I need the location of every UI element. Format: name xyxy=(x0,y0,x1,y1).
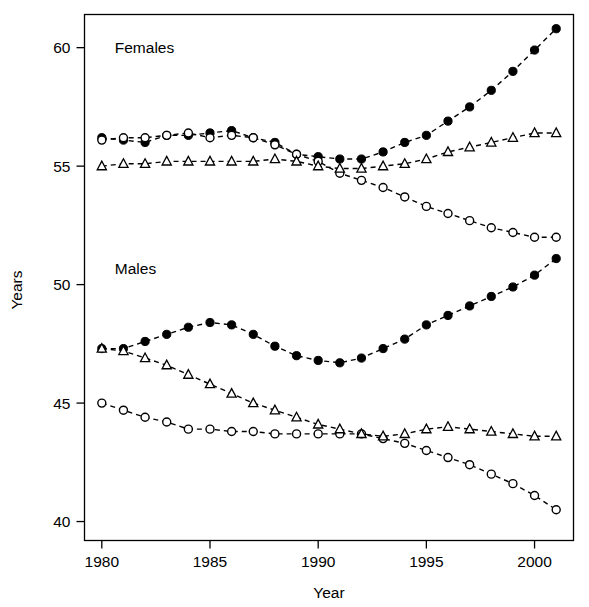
marker-filled-circle xyxy=(444,117,452,125)
marker-filled-circle xyxy=(336,359,344,367)
marker-open-circle xyxy=(444,210,452,218)
x-tick-label: 1980 xyxy=(85,553,120,570)
marker-filled-circle xyxy=(379,344,387,352)
marker-open-circle xyxy=(357,176,365,184)
marker-filled-circle xyxy=(509,67,517,75)
marker-open-circle xyxy=(249,428,257,436)
marker-filled-circle xyxy=(466,103,474,111)
marker-open-circle xyxy=(422,202,430,210)
marker-open-circle xyxy=(509,480,517,488)
marker-open-circle xyxy=(552,233,560,241)
marker-open-circle xyxy=(249,134,257,142)
marker-open-circle xyxy=(184,425,192,433)
marker-open-circle xyxy=(531,491,539,499)
marker-filled-circle xyxy=(444,311,452,319)
marker-filled-circle xyxy=(422,131,430,139)
marker-filled-circle xyxy=(487,292,495,300)
marker-open-circle xyxy=(141,134,149,142)
marker-open-circle xyxy=(228,428,236,436)
marker-open-circle xyxy=(487,224,495,232)
marker-open-circle xyxy=(466,217,474,225)
x-tick-label: 2000 xyxy=(517,553,552,570)
marker-open-circle xyxy=(422,446,430,454)
marker-filled-circle xyxy=(314,356,322,364)
marker-filled-circle xyxy=(357,354,365,362)
marker-filled-circle xyxy=(466,302,474,310)
marker-open-circle xyxy=(552,506,560,514)
marker-open-circle xyxy=(487,470,495,478)
marker-filled-circle xyxy=(141,337,149,345)
marker-open-circle xyxy=(184,129,192,137)
marker-filled-circle xyxy=(422,321,430,329)
marker-open-circle xyxy=(466,461,474,469)
marker-filled-circle xyxy=(163,330,171,338)
marker-open-circle xyxy=(509,228,517,236)
x-tick-label: 1990 xyxy=(301,553,336,570)
marker-filled-circle xyxy=(530,46,538,54)
y-tick-label: 45 xyxy=(53,395,70,412)
chart-background xyxy=(0,0,589,607)
marker-open-circle xyxy=(206,425,214,433)
marker-open-circle xyxy=(163,418,171,426)
marker-filled-circle xyxy=(336,155,344,163)
y-tick-label: 55 xyxy=(53,158,70,175)
marker-filled-circle xyxy=(184,323,192,331)
marker-filled-circle xyxy=(530,271,538,279)
marker-filled-circle xyxy=(206,318,214,326)
marker-open-circle xyxy=(228,131,236,139)
marker-open-circle xyxy=(293,430,301,438)
marker-filled-circle xyxy=(357,155,365,163)
group-label-females: Females xyxy=(115,39,175,56)
chart-figure: 4045505560 19801985199019952000 FemalesM… xyxy=(0,0,589,607)
x-axis-title: Year xyxy=(313,584,344,601)
marker-filled-circle xyxy=(487,86,495,94)
marker-filled-circle xyxy=(292,352,300,360)
marker-open-circle xyxy=(119,406,127,414)
marker-filled-circle xyxy=(401,335,409,343)
marker-open-circle xyxy=(314,430,322,438)
marker-open-circle xyxy=(379,183,387,191)
marker-open-circle xyxy=(206,134,214,142)
x-tick-label: 1985 xyxy=(193,553,227,570)
marker-open-circle xyxy=(531,233,539,241)
marker-open-circle xyxy=(271,430,279,438)
marker-filled-circle xyxy=(249,330,257,338)
y-tick-label: 40 xyxy=(53,513,71,530)
marker-open-circle xyxy=(401,193,409,201)
group-label-males: Males xyxy=(115,260,157,277)
marker-filled-circle xyxy=(228,321,236,329)
marker-open-circle xyxy=(401,439,409,447)
marker-filled-circle xyxy=(379,148,387,156)
marker-filled-circle xyxy=(552,254,560,262)
marker-open-circle xyxy=(141,413,149,421)
marker-open-circle xyxy=(271,141,279,149)
marker-filled-circle xyxy=(271,342,279,350)
marker-open-circle xyxy=(119,134,127,142)
marker-filled-circle xyxy=(401,138,409,146)
x-tick-label: 1995 xyxy=(409,553,443,570)
marker-filled-circle xyxy=(552,25,560,33)
y-tick-label: 50 xyxy=(53,276,71,293)
marker-open-circle xyxy=(444,454,452,462)
marker-filled-circle xyxy=(509,283,517,291)
y-axis-title: Years xyxy=(8,270,25,309)
marker-open-circle xyxy=(98,136,106,144)
marker-open-circle xyxy=(163,131,171,139)
line-chart: 4045505560 19801985199019952000 FemalesM… xyxy=(0,0,589,607)
y-tick-label: 60 xyxy=(53,39,71,56)
marker-open-circle xyxy=(98,399,106,407)
